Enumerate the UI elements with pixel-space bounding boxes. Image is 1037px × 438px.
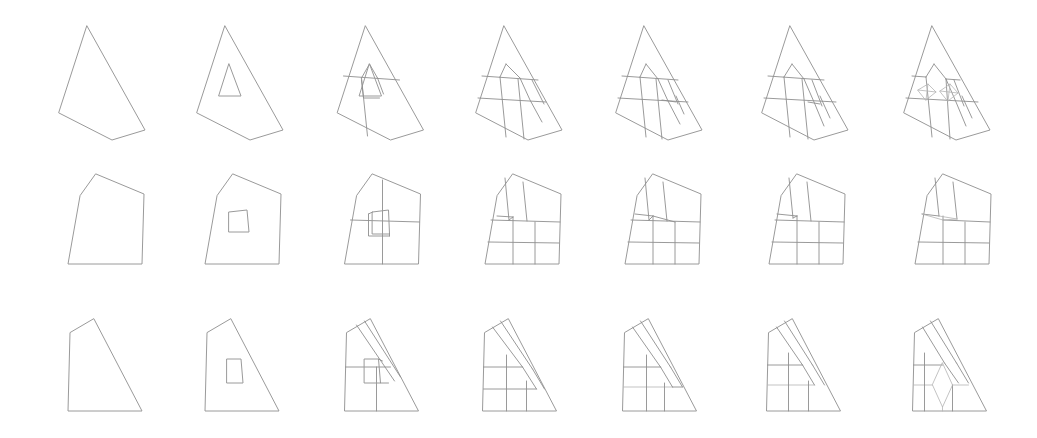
mesh-transition-left <box>793 216 797 218</box>
diagram-r1c4 <box>462 18 587 148</box>
mesh-generation-figure <box>0 0 1037 438</box>
triangular-hole <box>219 64 241 96</box>
mesh-row-2 <box>478 98 546 102</box>
mesh-row-1 <box>631 220 700 222</box>
mesh-band-ext-1 <box>661 367 673 387</box>
diagram-r1c2 <box>190 18 300 148</box>
mesh-row-2 <box>628 242 699 243</box>
mesh-row-line <box>344 76 400 80</box>
domain-outline <box>59 26 145 140</box>
diagram-r2c5 <box>608 170 728 285</box>
mesh-row-2 <box>488 242 559 243</box>
mesh-row-1 <box>622 76 678 80</box>
mesh-apex-right <box>646 64 658 79</box>
domain-outline <box>338 26 424 140</box>
diagram-r3c1 <box>56 315 166 430</box>
mesh-row-1-left <box>912 76 926 77</box>
domain-outline <box>197 26 283 140</box>
diagram-r2c4 <box>468 170 588 285</box>
mesh-row-1-right <box>943 220 990 222</box>
mesh-row-1 <box>482 76 538 80</box>
domain-outline <box>485 174 561 264</box>
diagram-r2c6 <box>752 170 872 285</box>
mesh-upper-col-1 <box>505 178 509 220</box>
mesh-apex-left <box>500 64 506 77</box>
diagram-r3c3 <box>330 315 450 430</box>
quad-hole <box>227 359 243 383</box>
mesh-col-2 <box>518 79 524 139</box>
diagram-r3c6 <box>752 315 872 430</box>
mesh-upper-col-2 <box>953 182 957 219</box>
mesh-col-1 <box>500 77 506 137</box>
mesh-row-1 <box>351 220 420 222</box>
mesh-apex-right <box>506 64 520 78</box>
mesh-band-ext-2 <box>671 367 683 387</box>
mesh-col-2 <box>802 79 808 139</box>
mesh-apex-left <box>926 64 934 77</box>
mesh-upper-col-1 <box>789 178 793 218</box>
diagram-r1c3 <box>328 18 443 148</box>
diagram-r2c2 <box>193 170 303 285</box>
mesh-band-inner <box>777 327 803 365</box>
mesh-col-1 <box>784 77 790 137</box>
mesh-row-1 <box>491 220 560 222</box>
mesh-diagonal-outer-1 <box>812 80 822 106</box>
mesh-diagonal-outer-2 <box>962 96 972 118</box>
mesh-upper-col-1 <box>935 178 939 216</box>
domain-outline <box>476 26 562 140</box>
mesh-diagonal-outer-2 <box>676 96 684 114</box>
mesh-peak-leg <box>378 78 384 94</box>
domain-outline <box>769 174 845 264</box>
mesh-apex-right <box>934 64 946 79</box>
mesh-peak-fan <box>362 64 378 78</box>
diagram-r3c4 <box>468 315 588 430</box>
domain-outline <box>68 174 144 264</box>
mesh-diagonal-outer <box>532 80 544 104</box>
mesh-band-ext-1 <box>945 363 959 383</box>
mesh-row-2 <box>764 98 836 102</box>
mesh-apex-left <box>640 64 646 77</box>
quad-hole <box>373 210 390 234</box>
quad-hole <box>365 359 381 383</box>
mesh-row-2 <box>772 242 843 243</box>
domain-outline <box>904 26 990 140</box>
mesh-transition-left <box>509 217 513 220</box>
mesh-band-outer <box>365 321 401 377</box>
mesh-col-2 <box>656 79 662 139</box>
domain-outline <box>483 319 557 411</box>
diagram-r1c6 <box>748 18 873 148</box>
mesh-col-1 <box>640 77 646 137</box>
diagram-r2c1 <box>56 170 166 285</box>
mesh-row-1 <box>775 220 844 222</box>
diagram-r2c3 <box>330 170 445 285</box>
mesh-diagonal-outer-2 <box>820 96 830 118</box>
diagram-r1c5 <box>602 18 727 148</box>
mesh-upper-col-1 <box>645 178 649 220</box>
diagram-r2c7 <box>898 170 1018 285</box>
diagram-r1c1 <box>52 18 162 148</box>
mesh-row-1 <box>768 76 824 80</box>
domain-outline <box>205 174 281 264</box>
mesh-hole-collar <box>369 214 390 236</box>
mesh-row-1-right <box>946 79 960 80</box>
mesh-band-ext-1 <box>523 367 537 389</box>
mesh-hole-link-top <box>369 212 373 214</box>
mesh-step-left <box>497 216 513 217</box>
diagram-r1c7 <box>890 18 1015 148</box>
mesh-col-1 <box>926 77 932 137</box>
domain-outline <box>345 319 419 411</box>
mesh-upper-col-2 <box>807 182 811 221</box>
mesh-band-inner <box>923 327 945 363</box>
mesh-diagonal-right <box>520 78 542 122</box>
mesh-row-2 <box>906 98 978 102</box>
seam-sliver-upper <box>939 216 957 219</box>
mesh-band-outer <box>501 321 533 369</box>
diagram-r3c7 <box>898 315 1018 430</box>
mesh-apex-right <box>792 64 804 79</box>
diagram-r3c5 <box>608 315 728 430</box>
diagram-r3c2 <box>193 315 303 430</box>
mesh-band-outer <box>931 321 957 363</box>
quad-hole <box>229 210 249 232</box>
mesh-upper-col-2 <box>523 182 527 221</box>
mesh-row-2 <box>918 242 989 243</box>
